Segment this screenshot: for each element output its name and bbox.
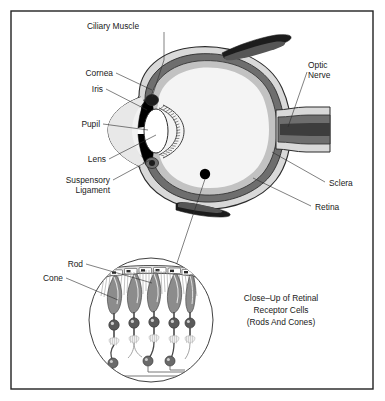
optic-nerve-center: [280, 123, 330, 136]
label-lens: Lens: [88, 154, 106, 164]
label-optic-nerve-line1: Optic: [308, 60, 328, 70]
caption-line-1: Close–Up of Retinal: [244, 293, 319, 303]
label-ciliary-muscle: Ciliary Muscle: [87, 21, 139, 31]
label-optic-nerve-line2: Nerve: [308, 70, 331, 80]
label-suspensory-ligament-line1: Suspensory: [66, 175, 111, 185]
caption-line-3: (Rods And Cones): [247, 317, 316, 327]
label-pupil: Pupil: [81, 119, 100, 129]
vitreous-humor: [154, 68, 269, 189]
label-rod: Rod: [68, 259, 84, 269]
label-sclera: Sclera: [329, 178, 353, 188]
eye-anatomy-figure: Ciliary Muscle Cornea Iris Pupil Lens Su…: [0, 0, 385, 401]
label-retina: Retina: [315, 202, 340, 212]
label-cone: Cone: [43, 273, 63, 283]
eye-diagram-svg: Ciliary Muscle Cornea Iris Pupil Lens Su…: [0, 0, 385, 401]
label-cornea: Cornea: [86, 68, 114, 78]
lens: [144, 109, 168, 153]
label-suspensory-ligament-line2: Ligament: [76, 185, 111, 195]
retina-callout-dot: [200, 169, 210, 179]
retina-closeup-group: [89, 258, 213, 382]
label-iris: Iris: [92, 84, 103, 94]
ciliary-muscle-lower-core: [149, 160, 155, 166]
caption-line-2: Receptor Cells: [254, 305, 309, 315]
